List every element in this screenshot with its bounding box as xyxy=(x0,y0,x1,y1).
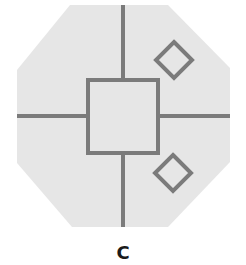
octagon-figure xyxy=(0,0,246,240)
figure-label: C xyxy=(0,243,246,263)
